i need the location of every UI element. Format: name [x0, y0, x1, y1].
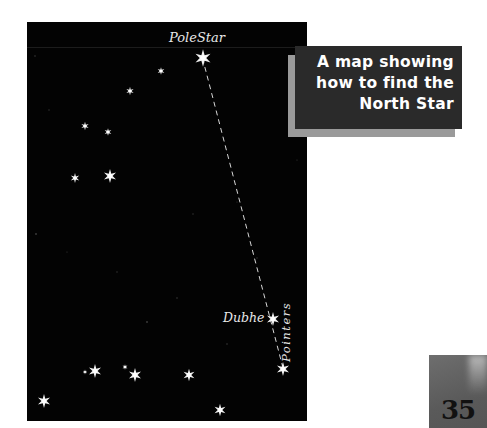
star-icon — [126, 87, 133, 95]
star-icon — [129, 368, 141, 382]
caption-line-3: North Star — [301, 94, 454, 115]
star-icon — [89, 364, 101, 378]
caption-line-2: how to find the — [301, 73, 454, 94]
dubhe-label: Dubhe — [223, 310, 265, 325]
pointers-label: Pointers — [279, 302, 293, 362]
star-icon — [38, 394, 50, 408]
star-icon — [123, 364, 128, 370]
star-icon — [184, 369, 195, 382]
page-number: 35 — [441, 395, 475, 425]
light-streak — [469, 355, 487, 395]
page-number-tile: 35 — [429, 355, 487, 428]
caption-box: A map showing how to find the North Star — [295, 46, 462, 129]
star-icon — [83, 370, 87, 375]
pole-star-icon — [196, 49, 211, 67]
star-icon — [81, 122, 88, 130]
merak-star-icon — [277, 362, 289, 376]
star-icon — [105, 128, 112, 136]
star-icon — [104, 169, 116, 183]
star-field — [27, 22, 307, 421]
star-icon — [71, 173, 79, 183]
pole-star-label: PoleStar — [169, 30, 225, 45]
star-icon — [158, 67, 165, 75]
star-map: PoleStar Dubhe Pointers — [27, 22, 307, 421]
star-icon — [215, 404, 226, 417]
caption-line-1: A map showing — [301, 52, 454, 73]
